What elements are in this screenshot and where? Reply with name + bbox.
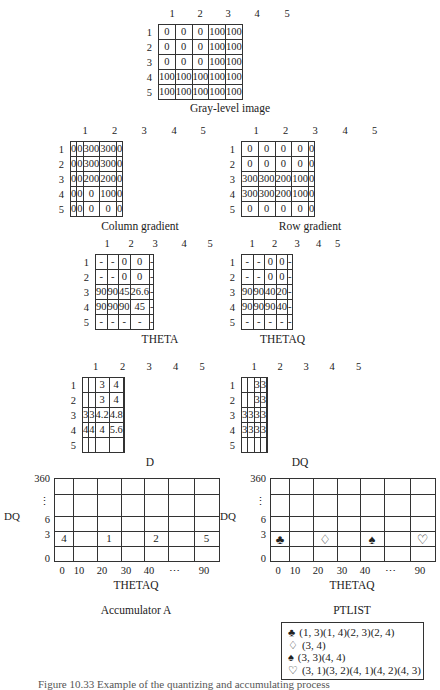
row_gradient-row-header: 5	[223, 204, 235, 215]
column_gradient-cell: 300	[100, 142, 117, 157]
gray_level-col-header: 2	[186, 8, 214, 19]
column_gradient-col-header: 5	[189, 125, 217, 136]
thetaq-cell: -	[253, 315, 265, 330]
accumulator-cell: 4	[55, 532, 73, 544]
gray_level-cell: 0	[159, 40, 176, 55]
d-cell	[95, 438, 109, 453]
row_gradient-col-header: 2	[271, 125, 300, 136]
gray_level-row-header: 4	[140, 72, 152, 83]
gray_level-cell: 100	[226, 55, 243, 70]
column_gradient-cell: 0	[100, 202, 117, 217]
gray_level-col-header: 4	[242, 8, 272, 19]
dq-cell	[267, 393, 268, 408]
ptlist-entry: ♠(3, 3)(4, 4)	[288, 651, 417, 664]
thetaq-cell: -	[288, 285, 293, 300]
d-cell: 4.2	[95, 408, 109, 423]
d-col-header: 3	[136, 361, 162, 372]
accumulator-y-tick: 360	[28, 473, 50, 484]
column_gradient-col-header: 3	[129, 125, 159, 136]
ptlist_plot-x-tick: 30	[330, 565, 354, 576]
accumulator-x-tick: 20	[90, 565, 114, 576]
gray_level-col-header: 5	[272, 8, 302, 19]
column_gradient-title: Column gradient	[60, 220, 220, 232]
gray_level-cell: 100	[226, 25, 243, 40]
accumulator-gridline	[194, 479, 195, 561]
gray_level-cell: 100	[209, 70, 226, 85]
accumulator-gridline	[55, 516, 219, 517]
theta-cell: 90	[96, 300, 108, 315]
row_gradient-cell: 0	[258, 157, 275, 172]
ptlist_plot-cell: ♡	[410, 532, 435, 548]
dq-row-header: 1	[223, 380, 235, 391]
theta-row: 90904526.6-	[96, 285, 154, 300]
gray_level-cell: 100	[226, 85, 243, 100]
d-row-header: 1	[64, 380, 76, 391]
ptlist-entry: ♣(1, 3)(1, 4)(2, 3)(2, 4)	[288, 626, 417, 639]
d-row	[83, 438, 125, 453]
theta-cell: -	[107, 255, 119, 270]
ptlist_plot-y-tick: ⋮	[244, 495, 266, 507]
theta-row: --00-	[96, 255, 154, 270]
accumulator-grid: 4125	[54, 478, 220, 562]
ptlist-symbol-icon: ♢	[288, 639, 298, 651]
d-title: D	[80, 456, 220, 468]
gray_level-cell: 0	[192, 25, 209, 40]
dq-row-header: 2	[223, 395, 235, 406]
dq-row: 33	[242, 378, 268, 393]
gray_level-row-header: 1	[140, 27, 152, 38]
thetaq-col-header: 1	[241, 238, 263, 249]
row_gradient-cell: 0	[309, 187, 315, 202]
row_gradient-matrix: 0000000000300300200100030030020010000000…	[241, 141, 315, 217]
column_gradient-row: 003003000	[71, 157, 123, 172]
column_gradient-cell: 200	[83, 172, 100, 187]
row_gradient-cell: 300	[258, 187, 275, 202]
d-row: 334.24.8	[83, 408, 125, 423]
ptlist_plot-y-tick: 6	[244, 514, 266, 525]
theta-row-header: 4	[77, 302, 89, 313]
row_gradient-row-header: 3	[223, 174, 235, 185]
thetaq-cell: -	[288, 300, 293, 315]
column_gradient-cell: 0	[83, 202, 100, 217]
accumulator-x-tick: ⋯	[162, 565, 186, 577]
ptlist-symbol-icon: ♣	[288, 626, 295, 638]
row_gradient-cell: 0	[292, 142, 309, 157]
thetaq-cell: -	[242, 255, 254, 270]
theta-cell: -	[96, 270, 108, 285]
row_gradient-row-header: 4	[223, 189, 235, 200]
d-row-header: 4	[64, 425, 76, 436]
accumulator-cell: 2	[144, 532, 168, 544]
thetaq-cell: 0	[276, 255, 288, 270]
ptlist_plot-gridline	[337, 479, 338, 561]
theta-row-header: 3	[77, 287, 89, 298]
ptlist_plot-y-tick: 360	[244, 473, 266, 484]
row_gradient-cell: 0	[242, 202, 259, 217]
d-row-header: 3	[64, 410, 76, 421]
row_gradient-cell: 300	[242, 172, 259, 187]
thetaq-cell: -	[288, 270, 293, 285]
thetaq-cell: -	[265, 315, 277, 330]
ptlist-points: (1, 3)(1, 4)(2, 3)(2, 4)	[299, 626, 394, 638]
theta-cell: -	[149, 300, 154, 315]
column_gradient-row-header: 4	[52, 189, 64, 200]
theta-cell: 90	[96, 285, 108, 300]
ptlist_plot-gridline	[289, 479, 290, 561]
row_gradient-row: 00000	[242, 157, 315, 172]
thetaq-cell: 0	[265, 255, 277, 270]
accumulator-ylabel: DQ	[4, 510, 20, 522]
theta-cell: -	[149, 285, 154, 300]
thetaq-row: 90909040-	[242, 300, 293, 315]
ptlist_plot-x-tick: 10	[283, 565, 307, 576]
accumulator-y-tick: 3	[28, 529, 50, 540]
ptlist_plot-x-tick: 20	[306, 565, 330, 576]
row_gradient-cell: 200	[275, 172, 292, 187]
ptlist_plot-gridline	[313, 479, 314, 561]
row_gradient-cell: 0	[309, 172, 315, 187]
gray_level-cell: 0	[192, 40, 209, 55]
d-cell	[123, 438, 124, 453]
ptlist-points: (3, 3)(4, 4)	[298, 651, 346, 663]
accumulator-y-tick: 6	[28, 514, 50, 525]
d-cell	[123, 378, 124, 393]
gray_level-row-header: 5	[140, 87, 152, 98]
row_gradient-cell: 0	[275, 202, 292, 217]
theta-cell: 0	[130, 270, 149, 285]
